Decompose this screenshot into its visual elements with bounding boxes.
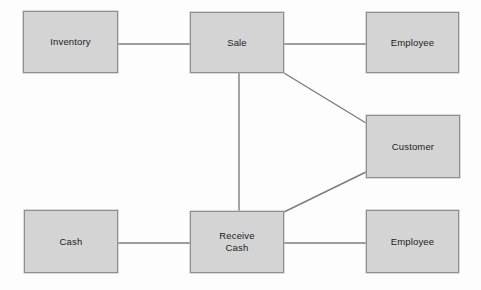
- entity-box-employee-bottom[interactable]: Employee: [366, 210, 459, 273]
- connector-receive-cash-customer: [284, 172, 366, 212]
- connector-sale-customer: [284, 73, 366, 123]
- entity-box-inventory[interactable]: Inventory: [23, 11, 118, 73]
- entity-label-cash: Cash: [60, 236, 83, 248]
- entity-label-receive-cash: Receive Cash: [219, 230, 254, 254]
- entity-label-inventory: Inventory: [50, 36, 90, 48]
- entity-box-cash[interactable]: Cash: [24, 210, 118, 273]
- diagram-canvas: InventorySaleEmployeeCustomerCashReceive…: [0, 0, 481, 290]
- entity-box-employee-top[interactable]: Employee: [366, 12, 459, 73]
- entity-label-employee-bottom: Employee: [391, 236, 434, 248]
- entity-label-customer: Customer: [392, 141, 434, 153]
- entity-label-employee-top: Employee: [391, 37, 434, 49]
- entity-label-sale: Sale: [227, 37, 247, 49]
- entity-box-sale[interactable]: Sale: [190, 12, 284, 73]
- entity-box-receive-cash[interactable]: Receive Cash: [190, 211, 284, 273]
- entity-box-customer[interactable]: Customer: [366, 115, 460, 178]
